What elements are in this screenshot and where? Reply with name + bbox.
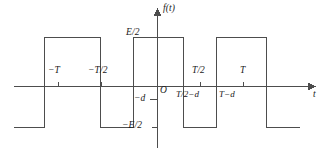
y-tick-marks (150, 38, 158, 128)
tick-label-T-half: T/2 (192, 66, 205, 76)
waveform-svg (0, 0, 329, 158)
amplitude-positive-label: E/2 (126, 28, 140, 38)
tick-label-minus-T-half: −T/2 (88, 66, 107, 76)
tick-label-minus-T: −T (48, 66, 60, 76)
offset-label: −d (134, 94, 145, 104)
y-axis-label: f(t) (163, 4, 175, 14)
tick-label-T-minus-d: T−d (219, 90, 235, 99)
tick-label-T-half-minus-d: T/2−d (176, 90, 199, 99)
x-tick-marks (59, 82, 244, 87)
tick-label-T: T (240, 66, 245, 76)
square-wave-figure: f(t) t O E/2 −E/2 −d −T −T/2 T/2 T T/2−d… (0, 0, 329, 158)
x-axis-label: t (313, 90, 316, 100)
amplitude-negative-label: −E/2 (122, 121, 142, 131)
f-axis-arrow (154, 8, 162, 16)
origin-label: O (160, 86, 167, 96)
